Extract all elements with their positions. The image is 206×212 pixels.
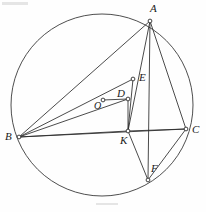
point-marker-O — [101, 98, 105, 102]
segment-B-E — [19, 79, 133, 137]
point-label-F: F — [151, 163, 158, 174]
scan-smudge-top-left — [2, 2, 28, 5]
point-marker-F — [146, 178, 150, 182]
point-marker-D — [126, 97, 130, 101]
segment-E-K — [128, 79, 133, 131]
circumcircle — [11, 14, 193, 196]
point-marker-E — [131, 77, 135, 81]
segment-A-F — [148, 21, 150, 180]
point-label-K: K — [120, 135, 127, 146]
segment-K-F — [128, 131, 148, 180]
point-label-B: B — [5, 131, 12, 142]
segment-B-D — [19, 99, 128, 137]
point-marker-B — [17, 135, 21, 139]
point-label-A: A — [150, 3, 157, 14]
point-marker-C — [184, 127, 188, 131]
segment-A-C — [150, 21, 186, 129]
geometry-figure: ABCEDOKF — [0, 0, 206, 212]
scan-smudge-bottom — [96, 203, 118, 205]
point-marker-A — [148, 19, 152, 23]
point-marker-K — [126, 129, 130, 133]
point-label-E: E — [139, 72, 146, 83]
segment-O-D — [103, 99, 128, 100]
point-label-C: C — [192, 124, 199, 135]
point-label-O: O — [94, 101, 101, 111]
point-label-D: D — [117, 88, 125, 99]
geometry-canvas — [0, 0, 206, 212]
segment-B-K — [19, 131, 128, 137]
